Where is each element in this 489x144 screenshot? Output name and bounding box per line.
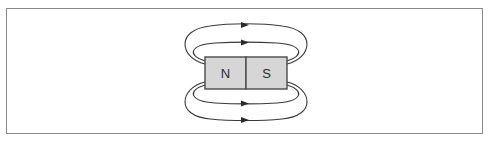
arrow-right-icon [241,117,249,123]
south-pole-label: S [262,66,271,81]
north-pole-label: N [221,66,230,81]
arrow-right-icon [241,101,249,107]
arrow-right-icon [241,22,249,28]
magnet-diagram: N S [0,0,489,144]
arrow-right-icon [241,40,249,46]
